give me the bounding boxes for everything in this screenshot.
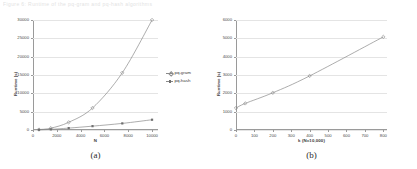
figure-b-plot-area — [236, 20, 387, 130]
legend-label: pq-gram — [175, 70, 191, 76]
x-tickmark — [383, 130, 384, 132]
x-tickmark — [57, 130, 58, 132]
data-point-marker — [91, 125, 93, 127]
legend-swatch-icon — [166, 79, 173, 84]
x-tickmark — [310, 130, 311, 132]
series-layer — [236, 20, 387, 130]
y-tick-label: 30000 — [3, 18, 29, 22]
x-tickmark — [365, 130, 366, 132]
y-tick-label: 0 — [206, 128, 232, 132]
figure-a-plot-area — [33, 20, 158, 130]
y-tick-label: 25000 — [3, 36, 29, 40]
series-line-runtime — [236, 37, 383, 108]
y-tick-label: 15000 — [3, 73, 29, 77]
y-tick-label: 2000 — [206, 91, 232, 95]
y-tick-label: 3000 — [206, 73, 232, 77]
figure-a-legend: pq-grampq-hash — [166, 70, 191, 87]
data-point-marker — [38, 129, 40, 131]
data-point-marker — [150, 18, 153, 21]
x-tickmark — [328, 130, 329, 132]
x-tickmark — [128, 130, 129, 132]
x-tickmark — [104, 130, 105, 132]
figure-a-caption: (a) — [63, 150, 128, 160]
y-tick-label: 4000 — [206, 55, 232, 59]
y-tick-label: 6000 — [206, 18, 232, 22]
data-point-marker — [121, 122, 123, 124]
figure-page: Figure 6: Runtime of the pq-gram and pq-… — [0, 0, 417, 169]
figure-b: Runtime (s) 0100020003000400050006000 01… — [209, 0, 417, 169]
figure-a: Runtime (s) 0500010000150002000025000300… — [0, 0, 209, 169]
x-tickmark — [81, 130, 82, 132]
x-tickmark — [346, 130, 347, 132]
x-tickmark — [273, 130, 274, 132]
x-tickmark — [33, 130, 34, 132]
series-line-pq-gram — [39, 20, 152, 130]
legend-label: pq-hash — [175, 78, 191, 84]
y-tick-label: 10000 — [3, 91, 29, 95]
legend-item-pq-hash[interactable]: pq-hash — [166, 78, 191, 84]
y-tick-label: 0 — [3, 128, 29, 132]
data-point-marker — [50, 128, 52, 130]
y-tick-label: 1000 — [206, 110, 232, 114]
legend-item-pq-gram[interactable]: pq-gram — [166, 70, 191, 76]
figure-a-x-axis-title: N — [33, 138, 158, 143]
x-tickmark — [291, 130, 292, 132]
series-line-pq-hash — [39, 120, 152, 130]
y-tick-label: 5000 — [206, 36, 232, 40]
figure-b-x-axis-title: k (N=10,000) — [236, 138, 387, 143]
x-tickmark — [254, 130, 255, 132]
figure-b-caption: (b) — [279, 150, 344, 160]
data-point-marker — [151, 119, 153, 121]
data-point-marker — [68, 127, 70, 129]
x-tickmark — [152, 130, 153, 132]
y-tick-label: 5000 — [3, 110, 29, 114]
legend-swatch-icon — [166, 71, 173, 76]
series-layer — [33, 20, 158, 130]
x-tickmark — [236, 130, 237, 132]
y-tick-label: 20000 — [3, 55, 29, 59]
